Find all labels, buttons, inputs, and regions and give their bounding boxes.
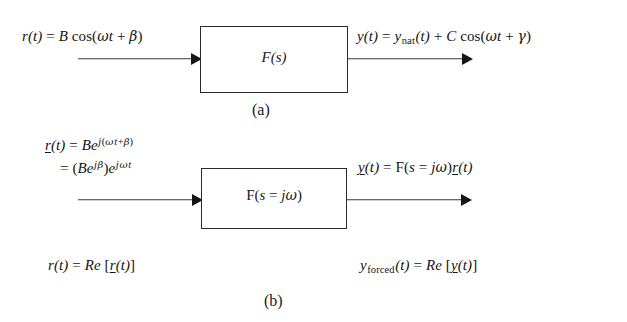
panel-b-bl-re: Re xyxy=(85,257,101,273)
panel-b-input2-amplitude: B xyxy=(78,160,87,176)
panel-a-input-time: t xyxy=(109,28,113,44)
panel-b-br-eq-sign: = xyxy=(414,257,423,273)
panel-b-output-arrow-head xyxy=(461,194,472,206)
panel-a-output-gamma: γ xyxy=(518,28,526,44)
panel-a-output-arrow-shaft xyxy=(348,58,463,60)
panel-b-input2-exp2-t: t xyxy=(128,159,132,170)
panel-b-br-y-arg: (t) xyxy=(395,257,409,273)
panel-a-output-eq-sign: = xyxy=(382,28,391,44)
panel-b-input-exp-omega: ω xyxy=(105,136,113,147)
panel-b-input-equation-line1: r(t) = Bej(ωt+β) xyxy=(45,136,133,154)
panel-b-output-arrow xyxy=(347,193,473,206)
panel-a-input-close-paren: ) xyxy=(138,28,143,44)
panel-a-input-lhs: r(t) xyxy=(22,28,42,44)
panel-a-output-plus-2: + xyxy=(505,28,514,44)
panel-b-output-equation: y(t) = F(s = jω)r(t) xyxy=(358,159,473,176)
panel-a-caption: (a) xyxy=(252,101,270,119)
panel-b-input2-e: e xyxy=(87,160,94,176)
panel-b-output-eq-sign: = xyxy=(383,159,392,175)
panel-b-br-inner-arg: (t) xyxy=(458,257,472,273)
panel-a-input-omega: ω xyxy=(97,28,109,44)
panel-b-input-eq-sign: = xyxy=(69,137,78,153)
panel-b-output-eq-sign-2: = xyxy=(419,159,428,175)
panel-a-input-arrow-shaft xyxy=(78,58,192,60)
panel-a-output-equation: y(t) = ynat(t) + C cos(ωt + γ) xyxy=(357,28,531,47)
panel-a-input-beta: β xyxy=(129,28,137,44)
panel-b-br-re: Re xyxy=(426,257,442,273)
panel-a-input-equation: r(t) = B cos(ωt + β) xyxy=(22,28,143,45)
panel-a-output-y-nat-subscript: nat xyxy=(401,35,415,46)
panel-b-transfer-function-block: F(s = jω) xyxy=(201,168,347,229)
panel-b-input-equation-line2: = (Bejβ)ejωt xyxy=(60,159,132,177)
panel-b-input-r-arg: (t) xyxy=(51,137,65,153)
panel-b-input-amplitude: B xyxy=(82,137,91,153)
panel-b-bottom-right-equation: yforced(t) = Re [y(t)] xyxy=(360,257,477,276)
panel-a-output-arrow xyxy=(348,52,474,65)
panel-b-bl-bracket-close: ] xyxy=(130,257,135,273)
panel-b-output-arrow-shaft xyxy=(347,199,462,201)
panel-b-output-s: s xyxy=(409,159,415,175)
panel-a-input-arrow xyxy=(78,52,202,65)
panel-b-caption: (b) xyxy=(264,292,283,310)
panel-b-input2-eq-sign: = xyxy=(60,160,69,176)
panel-b-bottom-left-equation: r(t) = Re [r(t)] xyxy=(48,257,135,274)
panel-b-block-label: F(s = jω) xyxy=(202,187,346,204)
panel-b-bl-inner-arg: (t) xyxy=(116,257,130,273)
panel-b-output-f: F( xyxy=(396,159,410,175)
panel-b-block-eq: = xyxy=(269,187,277,203)
panel-a-output-omega: ω xyxy=(486,28,498,44)
panel-b-input-arrow xyxy=(78,193,203,206)
panel-b-input2-exp2-omega: ω xyxy=(119,159,127,170)
panel-b-output-y-underlined: y xyxy=(358,159,365,175)
panel-b-input-e: e xyxy=(91,137,98,153)
panel-b-br-inner-y-underlined: y xyxy=(451,257,458,273)
panel-b-block-close: ) xyxy=(297,187,302,203)
panel-b-block-omega: ω xyxy=(285,187,296,203)
panel-a-transfer-function-block: F(s) xyxy=(200,26,348,93)
panel-a-output-lhs: y(t) xyxy=(357,28,378,44)
panel-b-bl-lhs: r(t) xyxy=(48,257,68,273)
panel-a-output-cos: cos( xyxy=(460,28,485,44)
panel-a-output-amplitude: C xyxy=(446,28,456,44)
panel-a-input-plus: + xyxy=(117,28,126,44)
panel-b-br-bracket-close: ] xyxy=(472,257,477,273)
panel-b-bl-eq-sign: = xyxy=(72,257,81,273)
panel-a-block-label: F(s) xyxy=(201,49,347,66)
panel-b-output-omega: ω xyxy=(436,159,448,175)
panel-b-output-r-arg: (t) xyxy=(458,159,472,175)
panel-a-output-y-nat-arg: (t) xyxy=(415,28,429,44)
panel-a-output-arrow-head xyxy=(462,53,473,65)
panel-b-br-y-subscript: forced xyxy=(367,264,395,275)
panel-b-block-s: s xyxy=(259,187,265,203)
panel-b-br-y-base: y xyxy=(360,257,367,273)
panel-a-output-time: t xyxy=(497,28,501,44)
panel-b-input-exp-close: ) xyxy=(130,136,134,147)
panel-a-input-cos: cos( xyxy=(72,28,97,44)
panel-a-input-amplitude: B xyxy=(59,28,68,44)
panel-a-output-close-paren: ) xyxy=(526,28,531,44)
panel-a-input-eq-sign: = xyxy=(46,28,55,44)
panel-b-block-f: F( xyxy=(246,187,259,203)
panel-b-input-arrow-shaft xyxy=(78,199,193,201)
figure-canvas: r(t) = B cos(ωt + β) F(s) y(t) = ynat(t)… xyxy=(0,0,627,322)
panel-a-output-plus: + xyxy=(434,28,443,44)
panel-b-output-y-arg: (t) xyxy=(365,159,379,175)
